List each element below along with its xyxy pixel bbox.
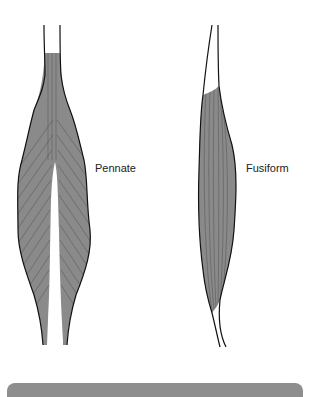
bottom-bar — [7, 383, 303, 397]
pennate-label: Pennate — [95, 162, 136, 174]
fusiform-muscle — [199, 25, 236, 347]
fusiform-label: Fusiform — [246, 162, 289, 174]
pennate-muscle — [10, 25, 100, 345]
